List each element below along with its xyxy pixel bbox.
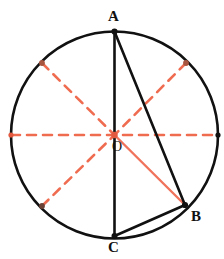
vertex-label-c: C xyxy=(108,240,119,255)
marker-northwest-icon xyxy=(39,60,45,66)
vertex-dot-b xyxy=(182,202,188,208)
dashed-diagonal-northwest xyxy=(42,63,115,135)
dashed-diagonal-northeast xyxy=(115,63,187,135)
marker-west-icon xyxy=(8,132,13,137)
vertex-label-a: A xyxy=(108,9,119,24)
marker-northeast-icon xyxy=(183,60,189,66)
marker-east-icon xyxy=(215,132,220,137)
radius-segment-ob xyxy=(115,135,186,205)
vertex-label-b: B xyxy=(191,209,201,224)
vertex-dot-a xyxy=(111,28,117,34)
center-point-marker xyxy=(111,132,117,138)
geometry-diagram: A B C O xyxy=(0,0,224,259)
dashed-diagonal-southwest xyxy=(42,135,115,206)
center-label-o: O xyxy=(112,140,122,154)
marker-southwest-icon xyxy=(39,203,45,209)
chord-segment-ab xyxy=(115,32,186,206)
